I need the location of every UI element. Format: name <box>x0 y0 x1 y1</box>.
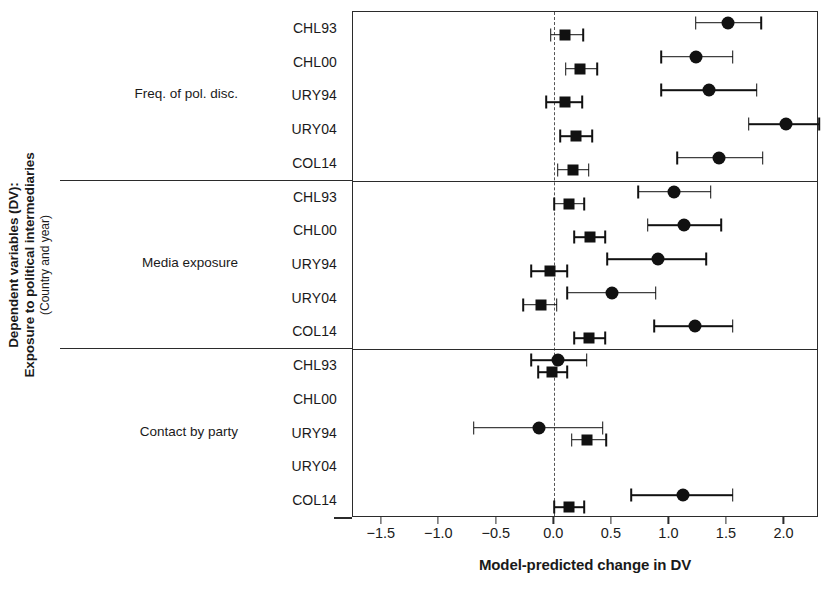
error-bar-cap <box>756 84 758 97</box>
data-point-circle <box>651 253 664 266</box>
x-tick <box>668 517 669 524</box>
data-point-circle <box>605 286 618 299</box>
error-bar-cap <box>522 298 524 311</box>
error-bar-cap <box>762 151 764 164</box>
data-point-circle <box>689 50 702 63</box>
y-axis-title: Dependent variables (DV): Exposure to po… <box>0 0 58 530</box>
error-bar-cap <box>655 286 657 299</box>
error-bar-cap <box>582 28 584 41</box>
forest-plot-figure: Dependent variables (DV): Exposure to po… <box>0 0 824 590</box>
plot-area <box>352 11 818 517</box>
x-tick-label: −0.5 <box>482 525 511 541</box>
row-label-chl93: CHL93 <box>293 189 337 205</box>
x-tick-label: 1.0 <box>658 525 678 541</box>
error-bar-cap <box>605 433 607 446</box>
error-bar-cap <box>559 130 561 143</box>
group-label-column: Freq. of pol. disc.Media exposureContact… <box>60 0 238 520</box>
data-point-circle <box>677 489 690 502</box>
error-bar-cap <box>573 332 575 345</box>
row-label-chl93: CHL93 <box>293 357 337 373</box>
error-bar-cap <box>537 366 539 379</box>
error-bar-cap <box>571 433 573 446</box>
error-bar-cap <box>473 421 475 434</box>
zero-reference-line <box>554 12 555 516</box>
data-point-square <box>564 198 575 209</box>
data-point-square <box>567 164 578 175</box>
x-axis-title: Model-predicted change in DV <box>352 556 818 573</box>
x-tick <box>495 517 496 524</box>
row-label-ury94: URY94 <box>292 425 337 441</box>
error-bar-cap <box>602 421 604 434</box>
x-tick <box>380 517 381 524</box>
row-label-column: CHL93CHL00URY94URY04COL14CHL93CHL00URY94… <box>240 0 345 520</box>
error-bar-cap <box>761 16 763 29</box>
error-bar-cap <box>661 84 663 97</box>
error-bar-cap <box>546 96 548 109</box>
error-bar-cap <box>586 354 588 367</box>
error-bar-cap <box>604 231 606 244</box>
caption-fragment <box>352 578 824 590</box>
data-point-square <box>585 232 596 243</box>
error-bar-cap <box>647 219 649 232</box>
error-bar-cap <box>695 16 697 29</box>
error-bar-cap <box>573 231 575 244</box>
error-bar-cap <box>705 253 707 266</box>
data-point-square <box>559 29 570 40</box>
error-bar-cap <box>677 151 679 164</box>
data-point-square <box>559 97 570 108</box>
y-axis-title-line1: Dependent variables (DV): <box>6 182 22 348</box>
error-bar-cap <box>661 50 663 63</box>
x-tick <box>438 517 439 524</box>
row-label-chl00: CHL00 <box>293 222 337 238</box>
data-point-square <box>547 367 558 378</box>
data-point-circle <box>702 84 715 97</box>
row-label-ury04: URY04 <box>292 290 337 306</box>
row-label-chl00: CHL00 <box>293 54 337 70</box>
error-bar-cap <box>604 332 606 345</box>
x-tick-label: −1.0 <box>424 525 453 541</box>
x-tick <box>725 517 726 524</box>
axis-left-stub <box>334 517 352 519</box>
x-tick-label: 0.0 <box>543 525 563 541</box>
data-point-circle <box>779 118 792 131</box>
data-point-circle <box>688 320 701 333</box>
error-bar-cap <box>550 28 552 41</box>
data-point-circle <box>722 16 735 29</box>
panel-separator <box>353 349 817 350</box>
error-bar-cap <box>583 197 585 210</box>
error-bar-cap <box>720 219 722 232</box>
y-axis-title-line3: (Country and year) <box>38 215 53 315</box>
error-bar-cap <box>748 118 750 131</box>
group-label-2: Contact by party <box>140 424 238 439</box>
data-point-circle <box>678 219 691 232</box>
data-point-square <box>535 299 546 310</box>
group-label-1: Media exposure <box>142 255 238 270</box>
error-bar-cap <box>566 265 568 278</box>
x-tick-label: 0.5 <box>601 525 621 541</box>
group-label-0: Freq. of pol. disc. <box>134 86 238 101</box>
error-bar-cap <box>654 320 656 333</box>
x-tick-label: −1.5 <box>366 525 395 541</box>
x-tick-label: 1.5 <box>716 525 736 541</box>
error-bar-cap <box>554 197 556 210</box>
row-label-chl93: CHL93 <box>293 20 337 36</box>
row-label-ury04: URY04 <box>292 458 337 474</box>
data-point-circle <box>533 421 546 434</box>
x-tick <box>783 517 784 524</box>
error-bar-cap <box>606 253 608 266</box>
data-point-square <box>571 131 582 142</box>
y-axis-title-line2: Exposure to political intermediaries <box>22 152 38 377</box>
error-bar-cap <box>818 118 820 131</box>
error-bar-cap <box>583 501 585 514</box>
data-point-square <box>574 63 585 74</box>
error-bar-cap <box>638 185 640 198</box>
error-bar-cap <box>732 320 734 333</box>
error-bar-cap <box>588 163 590 176</box>
panel-separator-extension <box>60 348 352 349</box>
data-point-square <box>564 502 575 513</box>
row-label-col14: COL14 <box>292 492 337 508</box>
error-bar-cap <box>531 354 533 367</box>
error-bar-cap <box>531 265 533 278</box>
panel-separator <box>353 181 817 182</box>
row-label-chl00: CHL00 <box>293 391 337 407</box>
